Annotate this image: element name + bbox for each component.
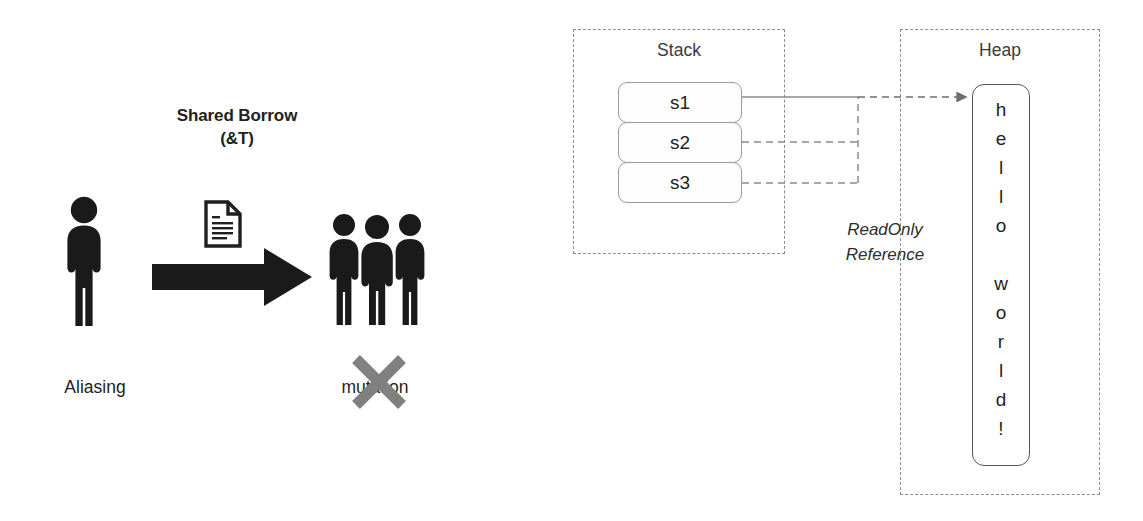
heap-label: Heap	[900, 40, 1100, 61]
heap-char: e	[973, 124, 1029, 153]
readonly-reference-line1: ReadOnly	[820, 217, 950, 242]
single-person-icon	[56, 196, 112, 326]
mutation-caption: mutation	[315, 377, 435, 398]
heap-char: r	[973, 327, 1029, 356]
heap-char: !	[973, 414, 1029, 443]
stack-slot-s1[interactable]: s1	[618, 82, 742, 123]
shared-borrow-heading-line1: Shared Borrow	[152, 104, 322, 127]
stack-slot-s3-label: s3	[670, 172, 690, 194]
aliasing-caption: Aliasing	[10, 377, 180, 398]
heap-char: l	[973, 356, 1029, 385]
heap-char: o	[973, 298, 1029, 327]
diagram-canvas: Shared Borrow (&T) Aliasing mutation	[0, 0, 1143, 521]
heap-char: h	[973, 95, 1029, 124]
shared-borrow-heading-line2: (&T)	[152, 127, 322, 150]
heap-char: l	[973, 153, 1029, 182]
heap-char: o	[973, 211, 1029, 240]
stack-slot-s3[interactable]: s3	[618, 162, 742, 203]
heap-char: l	[973, 182, 1029, 211]
heap-value-box: hello world!	[972, 84, 1030, 466]
stack-slot-s2-label: s2	[670, 132, 690, 154]
shared-borrow-heading: Shared Borrow (&T)	[152, 104, 322, 150]
stack-label: Stack	[573, 40, 785, 61]
three-people-icon	[327, 213, 427, 325]
heap-char: d	[973, 385, 1029, 414]
heap-char	[973, 240, 1029, 269]
readonly-reference-label: ReadOnly Reference	[820, 217, 950, 267]
stack-slot-s1-label: s1	[670, 92, 690, 114]
heap-char: w	[973, 269, 1029, 298]
document-icon	[203, 200, 243, 248]
thick-right-arrow-icon	[152, 248, 312, 306]
readonly-reference-line2: Reference	[820, 242, 950, 267]
stack-slot-s2[interactable]: s2	[618, 122, 742, 163]
